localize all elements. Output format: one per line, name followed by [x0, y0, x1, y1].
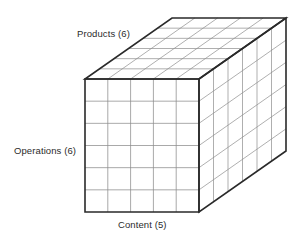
axis-label-products: Products (6) — [77, 28, 130, 39]
figure-root: Products (6) Operations (6) Content (5) — [0, 0, 301, 243]
cuboid-diagram — [0, 0, 301, 243]
axis-label-content: Content (5) — [118, 219, 167, 230]
axis-label-operations: Operations (6) — [14, 145, 76, 156]
cube-faces — [85, 18, 286, 212]
